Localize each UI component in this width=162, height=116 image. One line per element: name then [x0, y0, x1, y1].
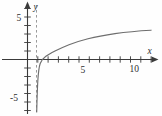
x-tick-label-5: 5 [81, 65, 86, 75]
log-function-graph: y x 5 -5 5 10 [0, 0, 162, 116]
x-axis-arrow-icon [152, 57, 159, 63]
y-axis-label: y [33, 2, 39, 12]
plot-canvas: y x 5 -5 5 10 [0, 0, 162, 116]
x-tick-label-10: 10 [130, 64, 140, 74]
y-tick-label-neg5: -5 [10, 93, 18, 103]
y-tick-label-5: 5 [17, 13, 22, 23]
x-axis-label: x [147, 46, 153, 56]
y-axis-arrow-icon [25, 2, 31, 9]
